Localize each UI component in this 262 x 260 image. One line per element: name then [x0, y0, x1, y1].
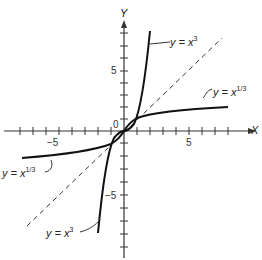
annotation-cube-top: y = x3: [170, 35, 197, 48]
annotation-cube-root-left: y = x1/3: [2, 166, 35, 179]
y-tick-label-5: 5: [111, 65, 117, 76]
y-axis-label: Y: [120, 7, 127, 19]
curve-cube-root: [22, 107, 228, 158]
axes: [4, 20, 256, 258]
x-axis-label: X: [251, 124, 258, 136]
annotation-cube-root-right: y = x1/3: [213, 85, 246, 98]
x-tick-label-5: 5: [186, 137, 192, 148]
origin-label: 0: [113, 119, 119, 130]
y-axis-arrow-icon: [121, 20, 127, 28]
x-tick-label-neg5: −5: [47, 137, 58, 148]
y-tick-label-neg5: −5: [105, 190, 116, 201]
function-graph: [0, 0, 262, 260]
annotation-cube-bottom: y = x3: [46, 226, 73, 239]
